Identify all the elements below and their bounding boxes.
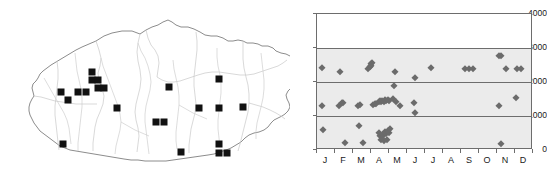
map-occurrence-point xyxy=(95,77,102,84)
x-axis-tick-mark xyxy=(424,149,425,153)
map-occurrence-point xyxy=(216,141,223,148)
x-axis-tick-mark xyxy=(316,149,317,153)
map-occurrence-point xyxy=(216,105,223,112)
map-occurrence-point xyxy=(240,104,247,111)
x-axis-tick-mark xyxy=(334,149,335,153)
x-axis-tick-mark xyxy=(532,149,533,153)
map-occurrence-point xyxy=(224,150,231,157)
x-axis-tick-mark xyxy=(514,149,515,153)
x-axis-tick-mark xyxy=(496,149,497,153)
gridline-horizontal xyxy=(317,82,531,83)
x-axis-month-label: J xyxy=(319,155,331,166)
x-axis-month-label: S xyxy=(463,155,475,166)
x-axis-month-label: N xyxy=(499,155,511,166)
x-axis-month-label: F xyxy=(337,155,349,166)
bhutan-map-svg xyxy=(0,0,290,177)
x-axis-month-label: M xyxy=(355,155,367,166)
map-occurrence-point xyxy=(114,105,121,112)
country-outline xyxy=(29,20,290,161)
x-axis-tick-mark xyxy=(460,149,461,153)
map-occurrence-point xyxy=(60,141,67,148)
map-occurrence-point xyxy=(101,85,108,92)
map-occurrence-point xyxy=(161,119,168,126)
x-axis-tick-mark xyxy=(370,149,371,153)
map-occurrence-point xyxy=(83,89,90,96)
x-axis-month-label: M xyxy=(391,155,403,166)
map-occurrence-point xyxy=(166,84,173,91)
plot-area xyxy=(316,13,532,149)
x-axis-tick-mark xyxy=(352,149,353,153)
x-axis-tick-mark xyxy=(406,149,407,153)
x-axis-month-label: J xyxy=(409,155,421,166)
x-axis-month-label: A xyxy=(373,155,385,166)
map-occurrence-point xyxy=(178,149,185,156)
distribution-map-panel xyxy=(0,0,290,177)
map-occurrence-point xyxy=(65,97,72,104)
shaded-elevation-band xyxy=(317,48,531,149)
x-axis-tick-mark xyxy=(478,149,479,153)
gridline-horizontal xyxy=(317,48,531,49)
x-axis-tick-mark xyxy=(388,149,389,153)
gridline-horizontal xyxy=(317,116,531,117)
map-occurrence-point xyxy=(89,69,96,76)
map-occurrence-point xyxy=(75,89,82,96)
x-axis-month-label: D xyxy=(517,155,529,166)
map-occurrence-point xyxy=(153,119,160,126)
x-axis-month-label: O xyxy=(481,155,493,166)
map-occurrence-point xyxy=(58,89,65,96)
scatter-chart-panel: 01000200030004000 JFMAMJJASOND xyxy=(290,0,547,177)
map-occurrence-point xyxy=(196,105,203,112)
figure-container: 01000200030004000 JFMAMJJASOND xyxy=(0,0,547,177)
x-axis-tick-mark xyxy=(442,149,443,153)
x-axis-month-label: J xyxy=(427,155,439,166)
x-axis-month-label: A xyxy=(445,155,457,166)
map-occurrence-point xyxy=(216,76,223,83)
map-occurrence-point xyxy=(216,150,223,157)
